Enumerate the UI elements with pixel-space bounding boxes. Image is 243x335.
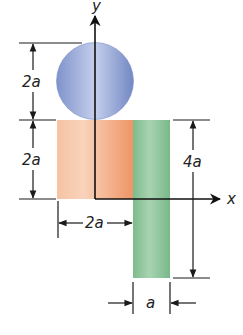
- rect-width-label: a: [146, 294, 155, 312]
- square-height-label: 2a: [22, 151, 41, 169]
- shapes: [57, 43, 171, 279]
- bottom-dimensions: 2a a: [58, 201, 196, 314]
- x-axis-label: x: [226, 190, 236, 208]
- circle-height-label: 2a: [22, 73, 41, 91]
- y-axis-label: y: [91, 0, 102, 15]
- rect-height-label: 4a: [183, 153, 202, 171]
- square-width-label: 2a: [85, 214, 104, 232]
- composite-area-diagram: y x 2a 2a 4a 2a a: [0, 0, 243, 335]
